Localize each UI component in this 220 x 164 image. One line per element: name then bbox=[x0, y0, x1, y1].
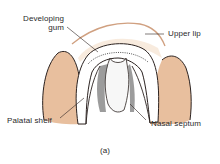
nasal-septum-shape bbox=[97, 58, 135, 112]
label-developing-gum-line1: Developing bbox=[23, 14, 64, 23]
label-developing-gum: Developing gum bbox=[23, 14, 64, 32]
figure-caption: (a) bbox=[100, 146, 110, 155]
label-nasal-septum: Nasal septum bbox=[151, 119, 201, 128]
label-upper-lip: Upper lip bbox=[168, 29, 201, 38]
label-developing-gum-line2: gum bbox=[23, 23, 64, 32]
label-palatal-shelf: Palatal shelf bbox=[7, 116, 52, 125]
